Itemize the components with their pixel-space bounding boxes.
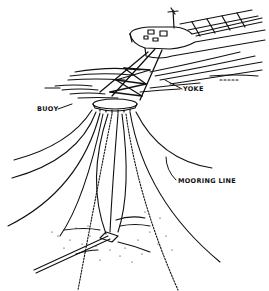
mooring-lines [8, 110, 220, 290]
mooring-diagram [0, 0, 269, 291]
mooring-line-label: MOORING LINE [178, 178, 236, 185]
leader-lines [58, 80, 182, 180]
yoke-label: YOKE [183, 86, 204, 93]
ship [130, 8, 265, 58]
seabed-base [34, 217, 150, 273]
water-surface [45, 52, 262, 98]
yoke [100, 49, 162, 100]
buoy [93, 99, 137, 113]
buoy-label: BUOY [37, 106, 58, 113]
